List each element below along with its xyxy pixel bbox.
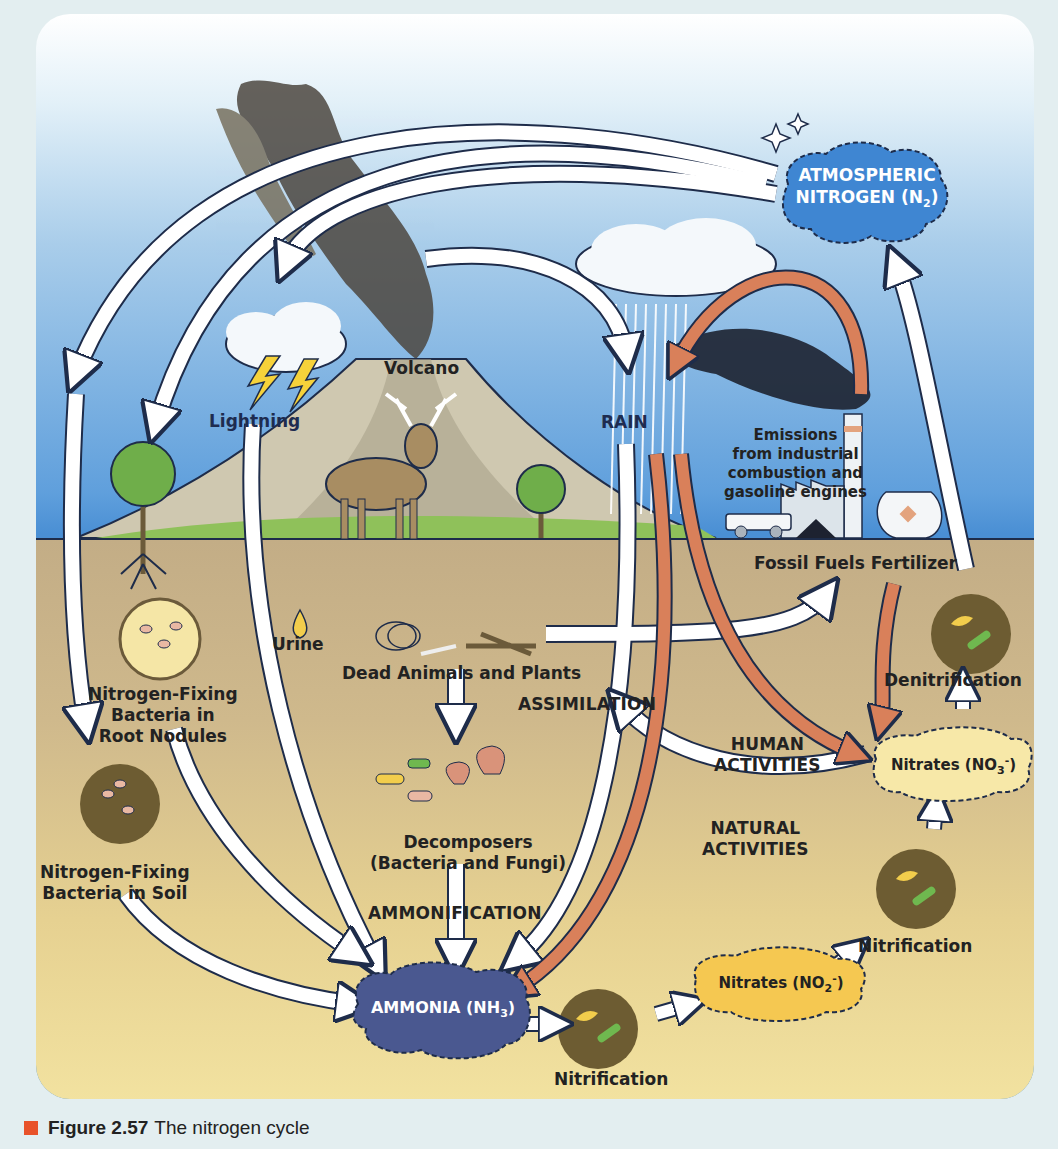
ammonification-label: AMMONIFICATION <box>368 903 542 924</box>
nitrate-label: Nitrates (NO3-) <box>876 754 1031 777</box>
figure-caption: Figure 2.57The nitrogen cycle <box>24 1117 310 1139</box>
urine-label: Urine <box>272 634 324 655</box>
human-activities-label: HUMAN ACTIVITIES <box>714 734 821 776</box>
sparkle-icons <box>762 114 808 152</box>
root-nodule-icon <box>120 599 200 679</box>
lightning-label: Lightning <box>209 411 300 432</box>
atmospheric-nitrogen-label: ATMOSPHERIC NITROGEN (N2) <box>788 164 946 215</box>
dead-animals-plants-icon <box>376 622 536 654</box>
truck <box>726 514 791 538</box>
decomposers-icon <box>376 746 505 801</box>
fossil-fuels-fertilizer-label: Fossil Fuels Fertilizer <box>754 553 957 574</box>
nf-soil-label: Nitrogen-Fixing Bacteria in Soil <box>40 862 190 904</box>
fertilizer-bag <box>877 492 941 538</box>
nitrifying-bacteria-icon-right <box>876 849 956 929</box>
nitrifying-bacteria-icon-bottom <box>558 989 638 1069</box>
diagram-panel: ATMOSPHERIC NITROGEN (N2) AMMONIA (NH3) … <box>36 14 1034 1099</box>
emissions-label: Emissions from industrial combustion and… <box>724 426 867 502</box>
denitrification-label: Denitrification <box>884 670 1022 691</box>
nitrite-label: Nitrates (NO2-) <box>696 972 866 995</box>
dead-animals-plants-label: Dead Animals and Plants <box>342 663 581 684</box>
caption-marker-icon <box>24 1121 38 1135</box>
soil-bacteria-icon <box>80 764 160 844</box>
volcano-label: Volcano <box>384 358 459 379</box>
ammonia-label: AMMONIA (NH3) <box>358 998 528 1020</box>
natural-activities-label: NATURAL ACTIVITIES <box>702 818 809 860</box>
nitrification-label-bottom: Nitrification <box>554 1069 668 1090</box>
nf-root-nodules-label: Nitrogen-Fixing Bacteria in Root Nodules <box>88 684 238 747</box>
nitrification-label-right: Nitrification <box>858 936 972 957</box>
rain-label: RAIN <box>601 412 648 433</box>
assimilation-label: ASSIMILATION <box>518 694 656 715</box>
decomposers-label: Decomposers (Bacteria and Fungi) <box>370 832 566 874</box>
denitrifying-bacteria-icon <box>931 594 1011 674</box>
industrial-smoke <box>673 329 870 410</box>
